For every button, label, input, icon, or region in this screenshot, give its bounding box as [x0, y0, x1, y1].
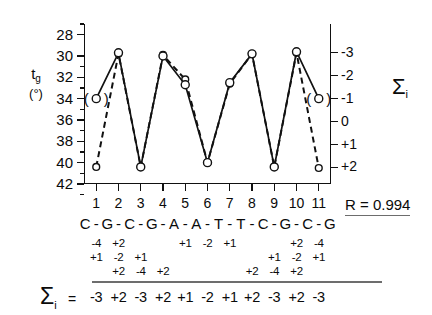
data-point-marker	[293, 48, 301, 56]
y-axis-tick-major	[77, 183, 84, 184]
x-axis-tick	[162, 184, 163, 191]
y-axis-right-tick	[331, 98, 338, 99]
x-axis-tick	[296, 184, 297, 191]
sigma-glyph: Σ	[392, 74, 406, 99]
x-axis-tick-label: 11	[306, 196, 332, 210]
x-axis-tick	[318, 184, 319, 191]
y-axis-right-tick	[331, 75, 338, 76]
sum-equals-sign: =	[68, 291, 76, 307]
chart-plot-area: ()()	[84, 24, 331, 184]
y-axis-tick-label: 32	[39, 69, 73, 84]
y-axis-right-tick-label: 0	[341, 114, 371, 128]
x-axis-tick	[96, 184, 97, 191]
data-point-marker	[315, 165, 322, 172]
y-axis-tick-label: 42	[39, 176, 73, 191]
y-axis-tick-major	[77, 162, 84, 163]
y-axis-right-tick-label: -1	[341, 91, 371, 105]
y-axis-tick-minor	[80, 66, 84, 67]
data-point-marker	[226, 79, 234, 87]
correlation-label: R = 0.994	[345, 197, 410, 216]
y-axis-tick-minor	[80, 151, 84, 152]
data-point-marker	[204, 159, 212, 167]
x-axis-tick	[251, 184, 252, 191]
sum-sigma-glyph: Σ	[40, 283, 54, 309]
sigma-subscript: i	[406, 88, 408, 100]
y-axis-tick-major	[77, 119, 84, 120]
y-axis-right-tick-label: -2	[341, 68, 371, 82]
x-axis-tick	[229, 184, 230, 191]
y-axis-right-tick	[331, 167, 338, 168]
y-axis-right-title: Σi	[392, 76, 408, 100]
y-axis-tick-major	[77, 77, 84, 78]
data-point-marker	[248, 50, 256, 58]
data-point-marker	[181, 81, 189, 89]
y-axis-tick-major	[77, 98, 84, 99]
y-axis-tick-minor	[80, 87, 84, 88]
x-axis-tick	[207, 184, 208, 191]
y-axis-right-tick-label: +1	[341, 137, 371, 151]
data-point-marker	[114, 49, 122, 57]
y-axis-tick-label: 28	[39, 27, 73, 42]
increment-value: +1	[126, 252, 156, 264]
x-axis-tick	[185, 184, 186, 191]
data-point-marker	[159, 52, 167, 60]
series-calculated	[93, 49, 322, 171]
y-axis-right-tick	[331, 121, 338, 122]
sum-sigma-subscript: i	[54, 299, 56, 311]
data-point-marker	[270, 163, 278, 171]
parenthesis-marker: )	[104, 90, 109, 107]
y-axis-tick-label: 34	[39, 91, 73, 106]
sum-symbol: Σi	[40, 285, 57, 311]
y-axis-tick-label: 40	[39, 155, 73, 170]
y-axis-tick-label: 30	[39, 48, 73, 63]
increment-value: +2	[103, 238, 133, 250]
increment-value: -4	[304, 238, 334, 250]
y-axis-right-tick	[331, 144, 338, 145]
increment-value: +2	[282, 266, 312, 278]
y-axis-tick-minor	[80, 109, 84, 110]
y-axis-tick-minor	[80, 23, 84, 24]
y-axis-right-tick-label: +2	[341, 159, 371, 173]
y-axis-right-tick-label: -3	[341, 45, 371, 59]
data-point-marker	[93, 164, 100, 171]
y-axis-tick-major	[77, 55, 84, 56]
x-axis-tick	[140, 184, 141, 191]
increment-value: +1	[304, 252, 334, 264]
data-point-marker	[92, 95, 100, 103]
y-axis-tick-major	[77, 34, 84, 35]
series-line	[96, 52, 319, 167]
parenthesis-marker: (	[84, 90, 89, 107]
x-axis-tick	[118, 184, 119, 191]
series-measured: ()()	[84, 48, 331, 171]
parenthesis-marker: (	[306, 90, 311, 107]
y-axis-tick-major	[77, 141, 84, 142]
increment-value: +1	[215, 238, 245, 250]
increment-value: +2	[148, 266, 178, 278]
data-point-marker	[315, 95, 323, 103]
y-axis-right-tick	[331, 52, 338, 53]
y-axis-tick-minor	[80, 173, 84, 174]
y-axis-tick-label: 36	[39, 112, 73, 127]
data-point-marker	[137, 163, 145, 171]
sum-rule-line	[92, 281, 382, 283]
sum-value: -3	[304, 290, 334, 305]
x-axis-tick	[274, 184, 275, 191]
y-axis-tick-minor	[80, 130, 84, 131]
sequence-base: G	[317, 216, 343, 231]
y-axis-tick-label: 38	[39, 133, 73, 148]
